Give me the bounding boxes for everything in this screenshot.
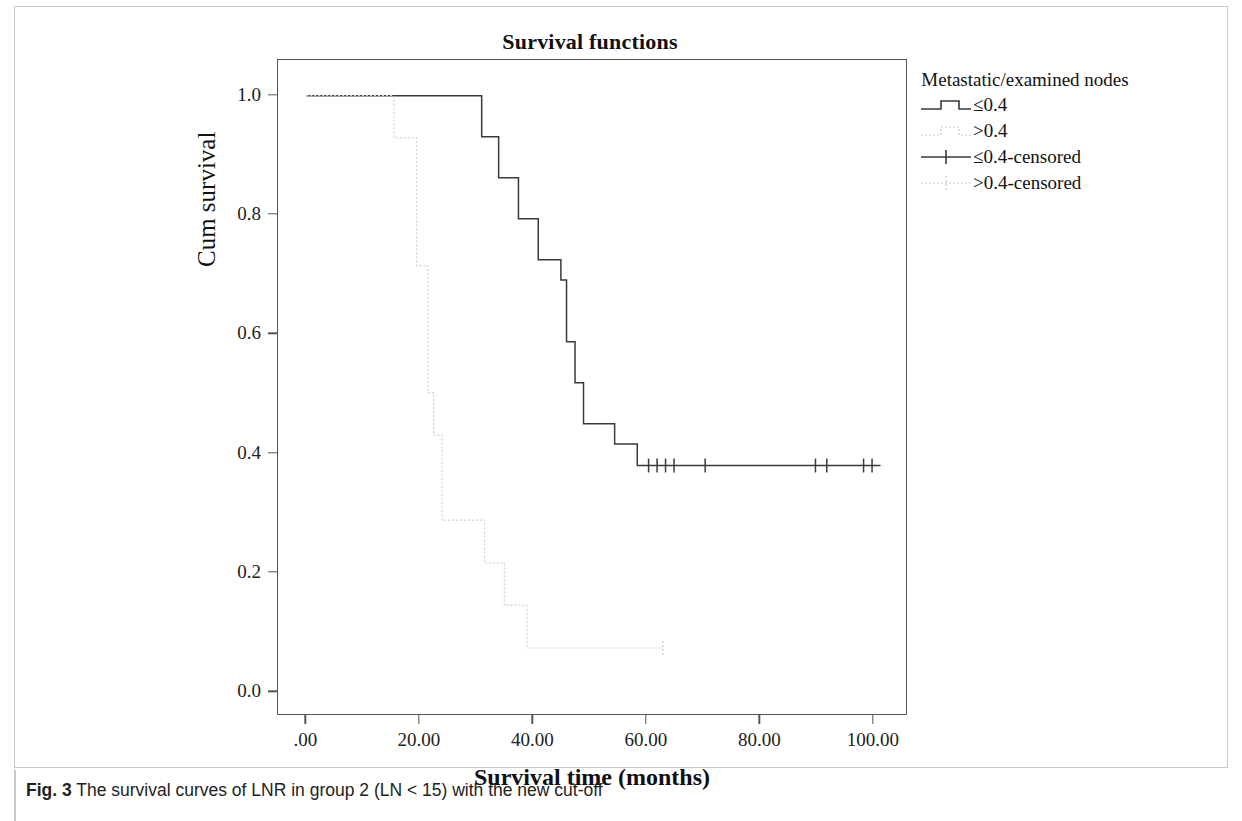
x-tick-mark: [759, 715, 760, 724]
x-tick-label: 100.00: [847, 729, 899, 751]
y-axis-title: Cum survival: [193, 132, 221, 267]
legend-item-label: ≤0.4: [973, 94, 1007, 116]
x-tick-mark: [418, 715, 419, 724]
x-tick-label: 60.00: [625, 729, 668, 751]
plus-dotted-icon: [919, 173, 973, 193]
plus-solid-icon: [919, 147, 973, 167]
x-tick-mark: [532, 715, 533, 724]
caption-text: The survival curves of LNR in group 2 (L…: [76, 780, 602, 800]
y-tick-label: 1.0: [237, 84, 261, 106]
y-tick-label: 0.0: [237, 680, 261, 702]
chart-title: Survival functions: [15, 29, 1165, 55]
plot-area: [277, 59, 907, 715]
caption-label: Fig. 3: [26, 780, 72, 800]
x-tick-mark: [872, 715, 873, 724]
legend-title: Metastatic/examined nodes: [913, 69, 1137, 91]
figure-card: Survival functions Cum survival Survival…: [14, 6, 1228, 768]
y-tick-mark: [268, 452, 277, 453]
legend-item[interactable]: ≤0.4: [913, 93, 1163, 117]
y-tick-mark: [268, 213, 277, 214]
legend-item[interactable]: ≤0.4-censored: [913, 145, 1163, 169]
legend-item-label: >0.4-censored: [973, 172, 1081, 194]
x-tick-label: .00: [294, 729, 318, 751]
y-tick-mark: [268, 94, 277, 95]
caption-rule: [14, 770, 16, 821]
y-tick-label: 0.4: [237, 442, 261, 464]
y-tick-label: 0.2: [237, 561, 261, 583]
legend: Metastatic/examined nodes ≤0.4>0.4≤0.4-c…: [913, 69, 1163, 195]
figure-caption: Fig. 3 The survival curves of LNR in gro…: [26, 780, 1216, 801]
y-tick-label: 0.6: [237, 322, 261, 344]
x-tick-mark: [305, 715, 306, 724]
step-solid-icon: [919, 95, 973, 115]
x-tick-mark: [645, 715, 646, 724]
step-dotted-icon: [919, 121, 973, 141]
x-tick-label: 40.00: [511, 729, 554, 751]
survival-step-line: [306, 96, 880, 466]
survival-curves: [278, 60, 906, 714]
survival-step-line: [306, 96, 662, 648]
y-tick-mark: [268, 333, 277, 334]
legend-rows: ≤0.4>0.4≤0.4-censored>0.4-censored: [913, 93, 1163, 195]
x-tick-label: 20.00: [398, 729, 441, 751]
legend-item[interactable]: >0.4-censored: [913, 171, 1163, 195]
y-tick-mark: [268, 690, 277, 691]
legend-item[interactable]: >0.4: [913, 119, 1163, 143]
legend-item-label: ≤0.4-censored: [973, 146, 1081, 168]
y-tick-label: 0.8: [237, 203, 261, 225]
x-tick-label: 80.00: [738, 729, 781, 751]
legend-item-label: >0.4: [973, 120, 1007, 142]
y-tick-mark: [268, 571, 277, 572]
